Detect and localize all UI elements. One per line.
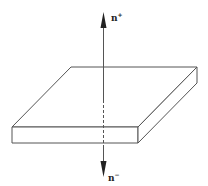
arrow-up-icon	[101, 12, 107, 28]
slab-front-face	[12, 127, 138, 143]
label-n-plus: n+	[111, 12, 123, 23]
arrow-down-icon	[101, 161, 107, 177]
slab-diagram	[0, 0, 208, 186]
label-n-plus-sup: +	[118, 11, 123, 18]
label-n-minus: n−	[108, 172, 120, 183]
label-n-minus-sup: −	[115, 171, 120, 178]
